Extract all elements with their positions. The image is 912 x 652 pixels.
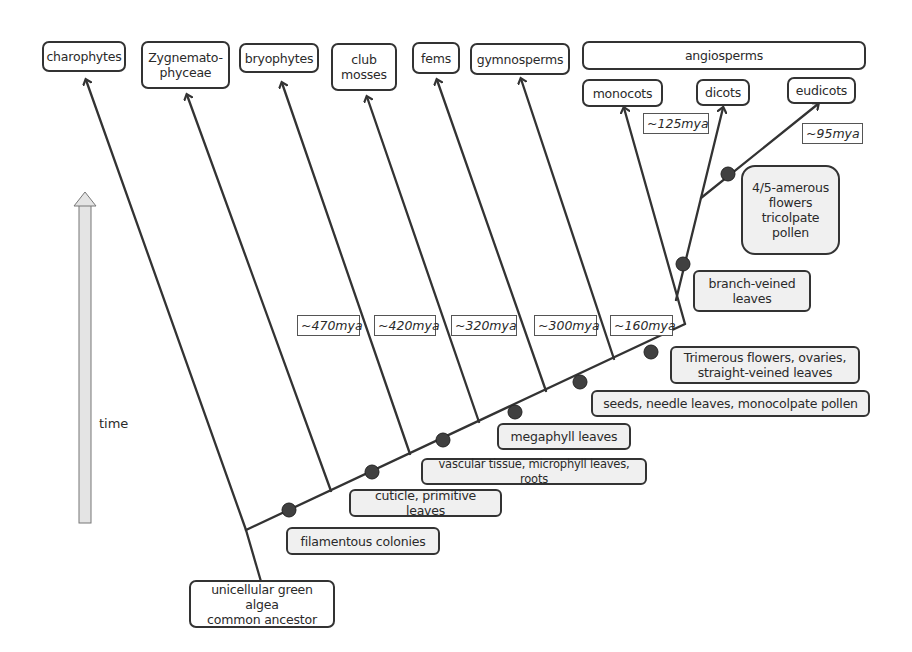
trait-seeds: seeds, needle leaves, monocolpate pollen	[591, 390, 870, 417]
date-label-95mya: ~95mya	[802, 123, 863, 144]
taxon-eudicots: eudicots	[787, 77, 856, 104]
date-label-320mya: ~320mya	[451, 315, 517, 336]
date-label-300mya: ~300mya	[534, 315, 597, 336]
date-label-125mya: ~125mya	[643, 113, 709, 134]
time-axis-label: time	[99, 416, 128, 431]
date-label-470mya: ~470mya	[297, 315, 360, 336]
taxon-charophytes: charophytes	[42, 41, 126, 72]
trait-vascular-tissue: vascular tissue, microphyll leaves, root…	[421, 458, 647, 485]
time-arrow-icon	[74, 192, 96, 523]
taxon-zygnematophyceae: Zygnemato- phyceae	[141, 41, 230, 89]
taxon-monocots: monocots	[582, 79, 663, 107]
taxon-bryophytes: bryophytes	[239, 43, 319, 73]
taxon-dicots: dicots	[696, 79, 750, 106]
trait-filamentous-colonies: filamentous colonies	[286, 527, 440, 555]
taxon-angiosperms: angiosperms	[582, 41, 866, 70]
trait-trimerous-flowers: Trimerous flowers, ovaries, straight-vei…	[670, 346, 860, 384]
date-label-160mya: ~160mya	[610, 315, 673, 336]
taxon-club-mosses: club mosses	[331, 43, 397, 91]
trait-branch-veined-leaves: branch-veined leaves	[693, 270, 811, 312]
root-common-ancestor: unicellular green algea common ancestor	[189, 580, 335, 628]
taxon-gymnosperms: gymnosperms	[470, 43, 570, 75]
phylogenetic-tree-diagram: charophytes Zygnemato- phyceae bryophyte…	[0, 0, 912, 652]
taxon-ferns: fems	[412, 42, 460, 74]
trait-cuticle: cuticle, primitive leaves	[349, 489, 502, 517]
trait-tetramerous-flowers: 4/5-amerous flowers tricolpate pollen	[741, 165, 840, 255]
date-label-420mya: ~420mya	[374, 315, 436, 336]
trait-megaphyll-leaves: megaphyll leaves	[497, 423, 631, 450]
